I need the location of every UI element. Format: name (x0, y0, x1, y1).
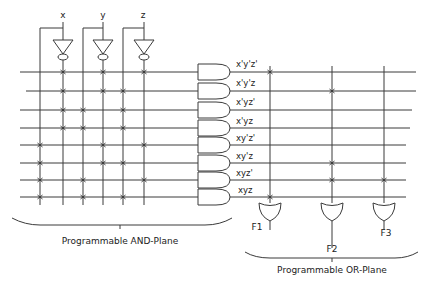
buffer-triangle-icon (134, 40, 154, 54)
gates (53, 40, 395, 221)
or-gate-icon (373, 203, 395, 221)
product-term-label: x'yz' (236, 97, 255, 107)
and-gate-icon (198, 64, 230, 80)
output-label-f1: F1 (252, 222, 263, 232)
or-plane-caption: Programmable OR-Plane (277, 265, 387, 275)
product-term-label: xy'z (236, 151, 253, 161)
and-gate-icon (198, 172, 230, 188)
and-gate-icon (198, 137, 230, 153)
product-term-label: x'yz (236, 116, 253, 126)
and-gate-icon (198, 155, 230, 171)
product-term-label: xyz (238, 185, 253, 195)
and-gate-icon (198, 120, 230, 136)
product-term-label: x'y'z (236, 78, 256, 88)
buffer-triangle-icon (53, 40, 73, 54)
and-plane-caption: Programmable AND-Plane (62, 236, 179, 246)
output-label-f3: F3 (381, 228, 392, 238)
input-label-z: z (141, 10, 146, 20)
and-gate-icon (198, 83, 230, 99)
buffer-triangle-icon (93, 40, 113, 54)
inverter-bubble-icon (98, 54, 108, 60)
product-term-label: xyz' (236, 168, 253, 178)
and-gate-icon (198, 189, 230, 205)
or-gate-icon (321, 203, 343, 221)
input-label-y: y (100, 10, 106, 20)
product-term-label: x'y'z' (236, 59, 258, 69)
pla-diagram: x y z x'y'z' x'y'z x'yz' x'yz xy'z' xy'z… (0, 0, 430, 288)
product-term-label: xy'z' (236, 133, 255, 143)
and-plane-brace (12, 218, 232, 225)
inverter-bubble-icon (58, 54, 68, 60)
output-label-f2: F2 (327, 244, 338, 254)
input-label-x: x (60, 10, 66, 20)
inverter-bubble-icon (139, 54, 149, 60)
and-gate-icon (198, 102, 230, 118)
or-gate-icon (259, 203, 281, 221)
